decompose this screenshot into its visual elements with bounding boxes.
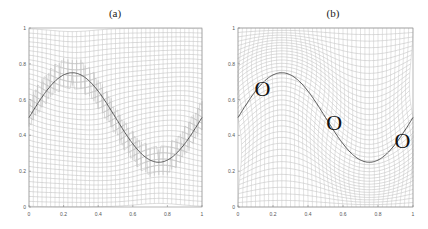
x-tick-label: 0.6 xyxy=(340,211,347,217)
y-tick-label: 0.4 xyxy=(228,132,235,138)
x-tick-label: 0.4 xyxy=(95,211,102,217)
y-tick-label: 1 xyxy=(232,25,235,31)
x-tick-label: 0 xyxy=(28,211,31,217)
y-tick-label: 0.6 xyxy=(228,97,235,103)
x-tick-label: 0 xyxy=(237,211,240,217)
y-tick-label: 0 xyxy=(23,204,26,210)
x-tick-label: 0.2 xyxy=(60,211,67,217)
y-tick-label: 0.2 xyxy=(228,168,235,174)
x-tick-label: 1 xyxy=(412,211,415,217)
x-tick-label: 0.8 xyxy=(164,211,171,217)
y-tick-label: 0.8 xyxy=(19,61,26,67)
x-tick-label: 0.4 xyxy=(305,211,312,217)
x-tick-label: 1 xyxy=(201,211,204,217)
x-tick-label: 0.2 xyxy=(270,211,277,217)
y-tick-label: 0.6 xyxy=(19,97,26,103)
x-tick-label: 0.8 xyxy=(375,211,382,217)
y-tick-label: 1 xyxy=(23,25,26,31)
marker-o: O xyxy=(326,110,342,135)
marker-o: O xyxy=(395,128,411,153)
marker-o: O xyxy=(255,76,271,101)
y-tick-label: 0.4 xyxy=(19,132,26,138)
y-tick-label: 0.8 xyxy=(228,61,235,67)
y-tick-label: 0 xyxy=(232,204,235,210)
panel-b: (b) 00.20.40.60.8100.20.40.60.81OOO xyxy=(214,0,428,229)
y-tick-label: 0.2 xyxy=(19,168,26,174)
panel-a-plot: 00.20.40.60.8100.20.40.60.81 xyxy=(0,0,214,229)
panel-b-plot: 00.20.40.60.8100.20.40.60.81OOO xyxy=(214,0,428,229)
panel-a: (a) 00.20.40.60.8100.20.40.60.81 xyxy=(0,0,214,229)
x-tick-label: 0.6 xyxy=(129,211,136,217)
